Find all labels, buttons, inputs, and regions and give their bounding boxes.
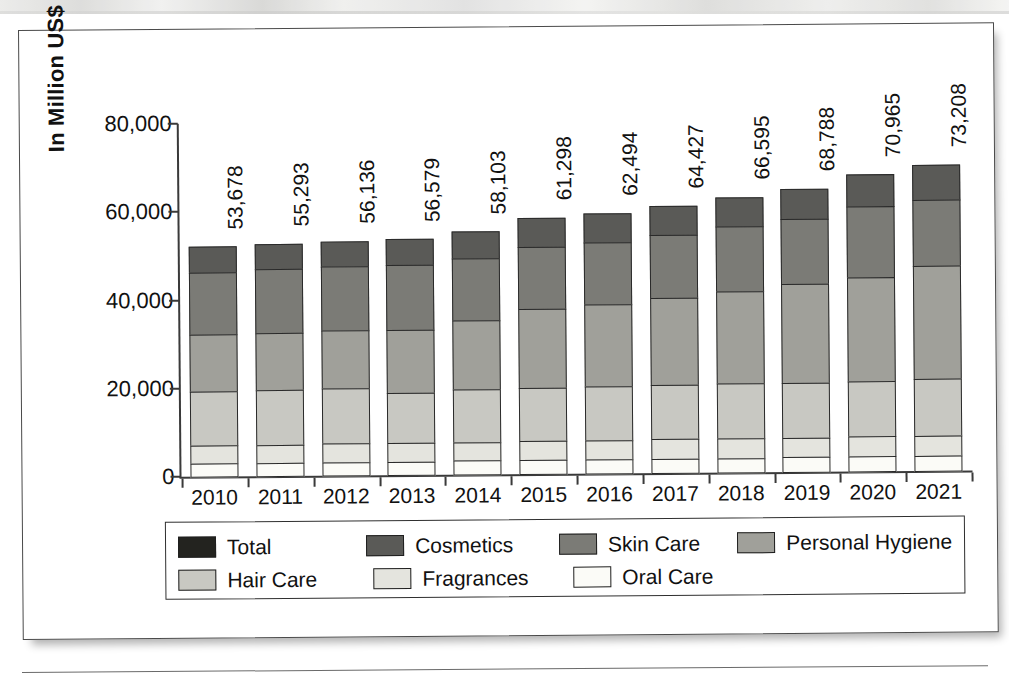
legend-swatch [366, 535, 404, 556]
bar-value-label: 56,136 [355, 159, 380, 223]
legend-label: Personal Hygiene [786, 529, 952, 554]
y-axis-tick-labels: 020,00040,00060,00080,000 [49, 30, 176, 639]
bar-segment [190, 391, 238, 447]
bar-segment [388, 443, 436, 463]
scan-artifact-band [0, 0, 1009, 14]
legend-item[interactable]: Total [178, 534, 366, 559]
bar-segment [256, 445, 304, 464]
x-axis-label: 2010 [182, 485, 248, 510]
legend-item[interactable]: Skin Care [559, 531, 738, 556]
bar-segment [189, 334, 237, 392]
bar-segment [649, 235, 698, 300]
bar-value-label: 58,103 [486, 150, 511, 214]
bar-segment [453, 321, 502, 392]
bar-segment [386, 265, 435, 331]
legend-label: Skin Care [608, 531, 700, 556]
bar-value-label: 64,427 [684, 124, 709, 188]
bar-segment [717, 438, 765, 459]
bar-segment [782, 382, 830, 438]
legend-swatch [373, 568, 411, 589]
legend-label: Fragrances [422, 566, 528, 591]
bar-segment [849, 456, 897, 472]
legend-row: Hair CareFragrancesOral Care [178, 558, 952, 597]
bar-stack [912, 164, 962, 472]
x-axis-tick-mark [972, 473, 974, 482]
legend-swatch [559, 533, 597, 554]
chart-page-frame: In Million US$ 020,00040,00060,00080,000… [18, 22, 999, 640]
legend-item[interactable]: Hair Care [178, 567, 373, 593]
legend-item[interactable]: Personal Hygiene [737, 529, 952, 555]
x-axis-label: 2015 [511, 483, 577, 508]
bar-segment [453, 390, 501, 444]
x-axis-label: 2012 [313, 484, 379, 509]
bar-segment [584, 242, 632, 306]
stacked-bar-chart: In Million US$ 020,00040,00060,00080,000… [19, 23, 998, 639]
bar-segment [322, 444, 370, 464]
bar-value-label: 53,678 [223, 165, 248, 229]
bar-segment [321, 330, 369, 390]
bar-segment [781, 284, 830, 384]
bar-value-label: 70,965 [881, 93, 906, 157]
x-axis-label: 2019 [774, 481, 840, 506]
bar-segment [781, 219, 830, 286]
legend-label: Oral Care [622, 564, 713, 589]
legend-swatch [573, 566, 611, 587]
bar-segment [847, 277, 896, 382]
bar-stack [846, 174, 896, 472]
bar-segment [846, 174, 894, 207]
bar-segment [320, 267, 369, 332]
legend-item[interactable]: Cosmetics [366, 532, 559, 558]
legend-label: Cosmetics [415, 533, 513, 558]
bar-stack [649, 206, 699, 474]
bar-segment [913, 265, 962, 380]
bar-segment [914, 379, 962, 437]
bar-segment [189, 273, 237, 336]
bar-stack [386, 239, 436, 476]
bar-segment [519, 441, 567, 461]
bar-segment [387, 393, 435, 444]
bar-segment [651, 458, 699, 474]
bar-segment [519, 387, 567, 442]
legend-item[interactable]: Fragrances [373, 565, 573, 591]
chart-legend: TotalCosmeticsSkin CarePersonal Hygiene … [165, 516, 966, 600]
legend-swatch [737, 532, 775, 553]
legend-swatch [178, 536, 216, 557]
legend-label: Total [227, 535, 272, 559]
bar-segment [715, 197, 763, 228]
y-axis-tick-label: 60,000 [50, 199, 172, 226]
bar-segment [715, 226, 764, 292]
bar-segment [585, 440, 633, 460]
bar-value-label: 61,298 [552, 136, 577, 200]
bar-segment [190, 445, 238, 464]
bar-stack [583, 213, 633, 475]
bar-segment [255, 333, 303, 392]
bar-value-label: 73,208 [947, 83, 972, 147]
bar-segment [454, 461, 502, 476]
bar-segment [585, 387, 633, 442]
bar-segment [781, 188, 829, 220]
bar-segment [583, 213, 631, 243]
bar-segment [716, 291, 765, 385]
bar-segment [388, 461, 436, 476]
x-axis-label: 2018 [708, 481, 774, 506]
bar-segment [518, 246, 566, 310]
y-axis-tick-label: 20,000 [52, 376, 174, 403]
bar-stack [781, 188, 831, 473]
bar-stack [189, 247, 239, 478]
bar-segment [716, 384, 764, 440]
bar-value-label: 68,788 [815, 107, 840, 171]
bar-segment [912, 164, 960, 201]
bar-value-label: 55,293 [289, 162, 314, 226]
bar-segment [256, 463, 304, 477]
x-axis-label: 2016 [577, 482, 643, 507]
bar-segment [387, 330, 436, 395]
legend-item[interactable]: Oral Care [573, 564, 758, 589]
bar-segment [848, 436, 896, 457]
page-bottom-rule [22, 665, 988, 673]
bar-value-label: 62,494 [618, 132, 643, 196]
y-axis-tick-label: 80,000 [50, 111, 172, 138]
bar-segment [650, 298, 699, 386]
bar-segment [848, 381, 896, 438]
bar-segment [717, 458, 765, 474]
bar-segment [452, 259, 500, 322]
